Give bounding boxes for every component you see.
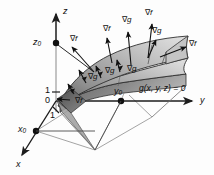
gradient-label-f-2: ∇f bbox=[103, 25, 110, 33]
point-label-x0-sub: 0 bbox=[23, 127, 27, 134]
gradient-label-f-1: ∇f bbox=[70, 35, 77, 43]
gradient-label-g-3: ∇g bbox=[88, 73, 97, 81]
gradient-label-g-4: ∇g bbox=[105, 67, 114, 75]
gradient-var: g bbox=[110, 66, 114, 75]
gradient-label-f-5: ∇f bbox=[75, 97, 82, 105]
gradient-var: g bbox=[93, 72, 97, 81]
gradient-var: g bbox=[127, 15, 131, 24]
gradient-var: f bbox=[194, 39, 196, 48]
gradient-label-g-2: ∇g bbox=[152, 27, 161, 35]
gradient-var: f bbox=[108, 24, 110, 33]
gradient-label-g-1: ∇g bbox=[122, 16, 131, 24]
tick-label-z-0: 0 bbox=[45, 96, 50, 105]
gradient-var: g bbox=[157, 26, 161, 35]
gradient-var: g bbox=[132, 64, 136, 73]
x-axis-label: x bbox=[16, 160, 21, 169]
grad-f-arrow-1 bbox=[72, 47, 94, 72]
gradient-label-g-5: ∇g bbox=[127, 65, 136, 73]
point-label-y0: y0 bbox=[114, 87, 122, 97]
gradient-var: f bbox=[75, 34, 77, 43]
tick-label-y-1: 1 bbox=[50, 111, 55, 120]
gradient-var: f bbox=[80, 96, 82, 105]
point-label-y0-sub: 0 bbox=[119, 89, 123, 96]
point-label-x0: x0 bbox=[18, 125, 26, 135]
z-axis-label: z bbox=[63, 7, 68, 16]
gradient-label-f-4: ∇f bbox=[189, 40, 196, 48]
constraint-equation-label: g(x, y, z) = 0 bbox=[139, 84, 185, 93]
point-label-z0-sub: 0 bbox=[38, 40, 42, 47]
y-axis-label: y bbox=[200, 96, 205, 105]
point-label-z0: z0 bbox=[33, 38, 41, 48]
ground-projection bbox=[36, 95, 152, 150]
tick-label-z-1: 1 bbox=[45, 86, 50, 95]
grad-f-arrow-z0 bbox=[58, 45, 94, 72]
lagrange-multiplier-diagram: z y x z0 x0 y0 1 0 1 g(x, y, z) = 0 ∇f ∇… bbox=[0, 0, 214, 175]
gradient-var: f bbox=[150, 8, 152, 17]
gradient-label-f-3: ∇f bbox=[145, 9, 152, 17]
point-z0 bbox=[53, 40, 59, 46]
